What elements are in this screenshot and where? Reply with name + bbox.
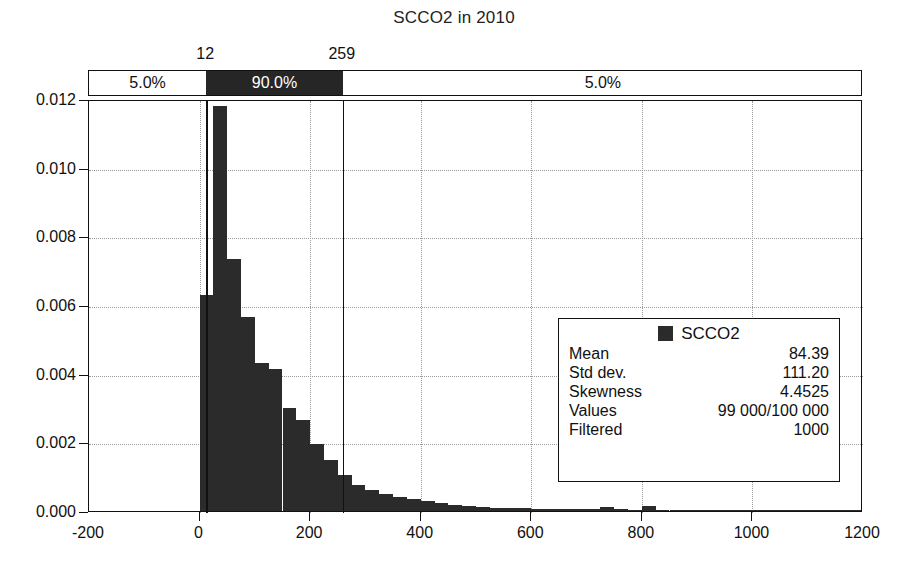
x-tick-label: 600 — [517, 524, 544, 542]
histogram-bar — [600, 507, 614, 511]
legend-row: Mean84.39 — [569, 345, 829, 364]
legend-header: SCCO2 — [569, 325, 829, 342]
y-tick-label: 0.006 — [36, 297, 76, 315]
x-tick-mark — [751, 512, 752, 521]
x-tick-mark — [641, 512, 642, 521]
histogram-bar — [780, 510, 794, 511]
legend-row: Std dev.111.20 — [569, 364, 829, 383]
percentile-upper-pct-label: 5.0% — [585, 75, 621, 91]
percentile-lower-pct-label: 5.0% — [129, 75, 165, 91]
histogram-bar — [476, 507, 490, 511]
y-tick-mark — [79, 375, 88, 376]
histogram-bar — [227, 259, 241, 511]
legend-row-key: Skewness — [569, 383, 654, 402]
x-tick-label: 0 — [194, 524, 203, 542]
histogram-bar — [241, 317, 255, 511]
percentile-segment-middle: 90.0% — [206, 71, 343, 95]
legend-row-key: Std dev. — [569, 364, 639, 383]
histogram-bar — [697, 510, 711, 511]
x-tick-label: 800 — [627, 524, 654, 542]
histogram-bar — [628, 510, 642, 511]
histogram-bar — [269, 369, 283, 511]
x-tick-label: 1000 — [734, 524, 770, 542]
percentile-vline-lower — [206, 101, 208, 513]
y-tick-label: 0.004 — [36, 366, 76, 384]
histogram-bar — [517, 508, 531, 511]
x-tick-label: -200 — [72, 524, 104, 542]
histogram-bar — [393, 497, 407, 511]
legend-row-value: 84.39 — [789, 345, 829, 364]
histogram-bar — [822, 510, 836, 511]
histogram-bar — [283, 408, 297, 511]
percentile-middle-pct-label: 90.0% — [252, 75, 297, 91]
y-tick-label: 0.002 — [36, 434, 76, 452]
chart-root: SCCO2 in 2010 12259 5.0% 90.0% 5.0% 0.00… — [0, 0, 908, 570]
y-tick-mark — [79, 512, 88, 513]
legend-row-key: Values — [569, 402, 629, 421]
percentile-segment-lower: 5.0% — [89, 71, 206, 95]
histogram-bar — [739, 510, 753, 511]
histogram-bar — [642, 506, 656, 511]
histogram-bar — [849, 510, 861, 511]
histogram-bar — [711, 510, 725, 511]
histogram-bar — [573, 509, 587, 511]
histogram-bar — [835, 510, 849, 511]
histogram-bar — [490, 508, 504, 511]
histogram-bar — [352, 485, 366, 511]
x-tick-label: 1200 — [844, 524, 880, 542]
histogram-bar — [725, 510, 739, 511]
histogram-bar — [504, 508, 518, 511]
legend-series-label: SCCO2 — [681, 325, 740, 342]
legend-row: Skewness4.4525 — [569, 383, 829, 402]
histogram-bar — [213, 106, 227, 511]
percentile-segment-upper: 5.0% — [343, 71, 863, 95]
legend-swatch-icon — [658, 326, 673, 341]
y-tick-mark — [79, 237, 88, 238]
legend-row: Filtered1000 — [569, 421, 829, 440]
legend-row-key: Mean — [569, 345, 621, 364]
histogram-bar — [808, 510, 822, 511]
x-tick-label: 200 — [296, 524, 323, 542]
histogram-bar — [614, 509, 628, 511]
histogram-bar — [545, 509, 559, 511]
y-tick-label: 0.008 — [36, 228, 76, 246]
legend-box: SCCO2 Mean84.39Std dev.111.20Skewness4.4… — [558, 318, 840, 482]
x-tick-mark — [309, 512, 310, 521]
histogram-bar — [435, 503, 449, 511]
y-tick-mark — [79, 169, 88, 170]
histogram-bar — [587, 509, 601, 511]
histogram-bar — [766, 510, 780, 511]
x-tick-mark — [530, 512, 531, 521]
y-tick-label: 0.010 — [36, 160, 76, 178]
legend-row-value: 1000 — [793, 421, 829, 440]
histogram-bar — [752, 510, 766, 511]
legend-row-value: 99 000/100 000 — [718, 402, 829, 421]
histogram-bar — [794, 510, 808, 511]
y-tick-label: 0.000 — [36, 503, 76, 521]
histogram-bar — [338, 475, 352, 511]
histogram-bar — [407, 499, 421, 511]
legend-row-value: 4.4525 — [780, 383, 829, 402]
y-tick-mark — [79, 306, 88, 307]
histogram-bar — [324, 460, 338, 512]
histogram-bar — [531, 509, 545, 511]
x-tick-mark — [199, 512, 200, 521]
histogram-bar — [365, 490, 379, 511]
histogram-bar — [310, 444, 324, 511]
legend-row: Values99 000/100 000 — [569, 402, 829, 421]
x-tick-mark — [420, 512, 421, 521]
chart-title: SCCO2 in 2010 — [0, 8, 908, 28]
y-tick-mark — [79, 443, 88, 444]
percentile-band: 5.0% 90.0% 5.0% — [88, 70, 862, 96]
histogram-bar — [670, 510, 684, 511]
histogram-bar — [379, 494, 393, 511]
histogram-bar — [559, 509, 573, 511]
legend-row-value: 111.20 — [782, 364, 829, 383]
y-tick-label: 0.012 — [36, 91, 76, 109]
histogram-bar — [683, 510, 697, 511]
percentile-vline-upper — [343, 101, 345, 513]
legend-row-key: Filtered — [569, 421, 634, 440]
histogram-bar — [656, 510, 670, 511]
x-tick-label: 400 — [406, 524, 433, 542]
histogram-bar — [462, 506, 476, 511]
